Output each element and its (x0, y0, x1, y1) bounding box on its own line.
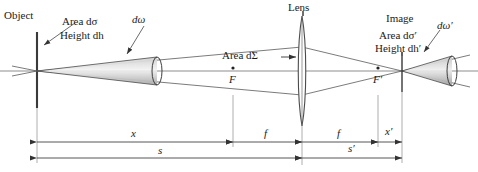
label-back-focus: F′ (373, 74, 382, 85)
solid-angle-cone-image (402, 56, 457, 86)
domega-label-leader (127, 26, 144, 54)
optics-ray-diagram: Object Area dσ Height dh dω Lens Area dΣ… (0, 0, 478, 172)
label-height-dh: Height dh (60, 30, 104, 41)
lens-element (298, 16, 306, 126)
label-height-dh-text: Height dh (60, 29, 104, 41)
label-area-do-text: Area dσ (62, 15, 98, 27)
witness-lines (37, 92, 402, 165)
solid-angle-cone-object (37, 57, 162, 85)
label-area-do-prime: Area dσ′ (379, 30, 417, 41)
dim-label-s: s (158, 145, 162, 156)
dim-label-f2: f (337, 128, 340, 139)
label-domega: dω (132, 14, 145, 25)
dim-label-sprime: s′ (348, 143, 355, 154)
label-lens: Lens (288, 2, 309, 13)
front-focus-dot (231, 66, 234, 69)
label-area-dsigma-object: Area dσ (62, 16, 98, 27)
dim-label-f1: f (264, 128, 267, 139)
label-front-focus: F (229, 74, 236, 85)
domega-prime-label-leader (424, 30, 440, 52)
dim-label-x: x (131, 128, 136, 139)
label-image: Image (386, 13, 413, 24)
label-height-dh-prime: Height dh′ (375, 43, 421, 54)
label-area-dsigma: Area dΣ (222, 50, 258, 61)
back-focus-dot (376, 66, 379, 69)
dim-label-xprime: x′ (385, 126, 392, 137)
label-domega-prime: dω′ (437, 20, 453, 31)
label-object: Object (4, 10, 33, 21)
